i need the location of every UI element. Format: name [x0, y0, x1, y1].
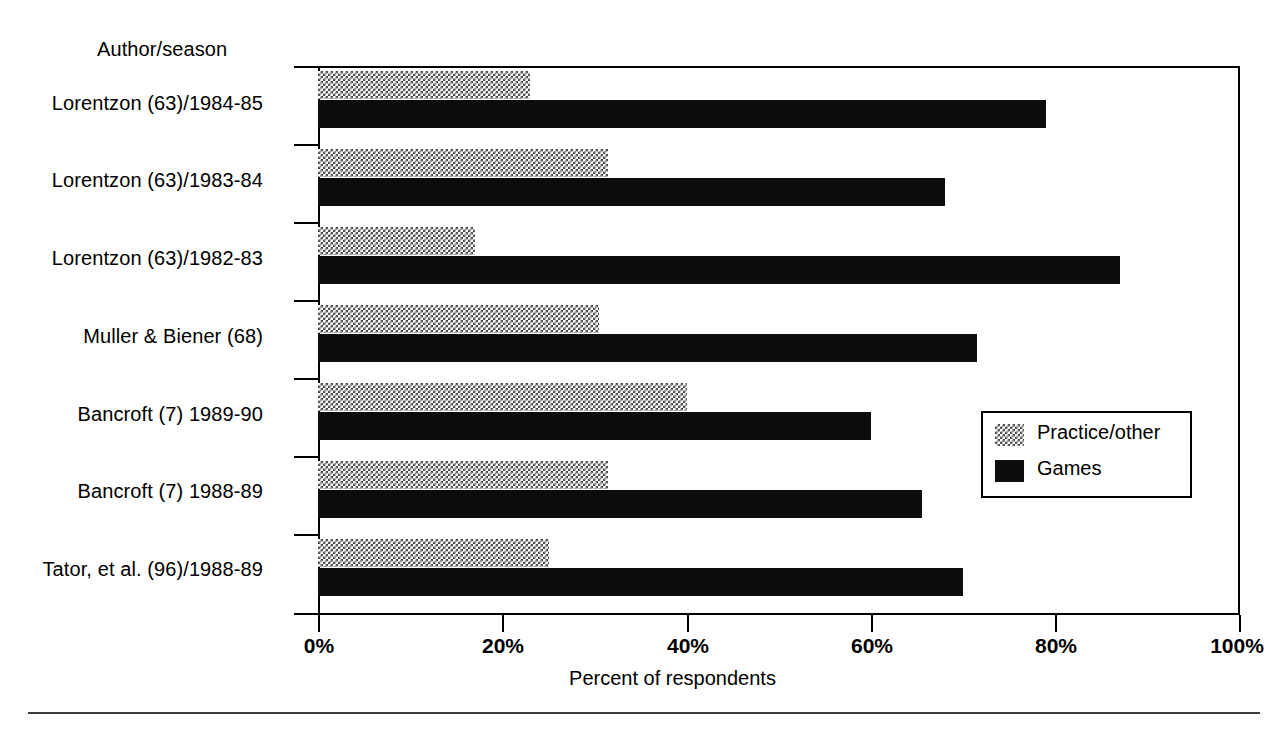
legend-label-practice: Practice/other	[1037, 421, 1160, 444]
bar-games-6	[318, 568, 963, 596]
bar-practice-5	[318, 461, 608, 489]
x-axis-tick-3	[871, 615, 873, 632]
bar-games-0	[318, 100, 1046, 128]
y-axis-tick-6	[294, 534, 318, 536]
legend-label-games: Games	[1037, 457, 1101, 480]
y-axis-title: Author/season	[97, 38, 227, 61]
y-tick-label-0: Lorentzon (63)/1984-85	[52, 92, 263, 115]
bar-games-2	[318, 256, 1120, 284]
legend-swatch-practice-icon	[995, 424, 1024, 446]
bar-practice-4	[318, 383, 687, 411]
bar-practice-1	[318, 149, 608, 177]
bars-layer	[318, 66, 1240, 615]
x-axis-tick-0	[318, 615, 320, 632]
bar-games-5	[318, 490, 922, 518]
bar-practice-0	[318, 71, 530, 99]
x-axis-tick-4	[1055, 615, 1057, 632]
bar-practice-3	[318, 305, 599, 333]
y-tick-label-1: Lorentzon (63)/1983-84	[52, 169, 263, 192]
x-tick-label-4: 80%	[1035, 634, 1077, 658]
y-axis-tick-0	[294, 66, 318, 68]
y-tick-label-4: Bancroft (7) 1989-90	[78, 403, 263, 426]
x-tick-label-3: 60%	[851, 634, 893, 658]
bar-practice-2	[318, 227, 475, 255]
y-tick-label-3: Muller & Biener (68)	[83, 325, 263, 348]
x-axis-title: Percent of respondents	[0, 667, 1285, 690]
bar-games-3	[318, 334, 977, 362]
x-tick-label-5: 100%	[1210, 634, 1264, 658]
bar-practice-6	[318, 539, 549, 567]
x-tick-label-1: 20%	[482, 634, 524, 658]
y-axis-tick-3	[294, 300, 318, 302]
y-tick-label-2: Lorentzon (63)/1982-83	[52, 247, 263, 270]
page-bottom-rule	[28, 712, 1260, 714]
legend-swatch-games-icon	[995, 460, 1024, 482]
chart-figure: Author/season Lorentzon (63)/1984-85 Lor…	[0, 0, 1285, 729]
x-axis-tick-2	[687, 615, 689, 632]
y-axis-tick-5	[294, 456, 318, 458]
bar-games-4	[318, 412, 871, 440]
x-tick-label-0: 0%	[304, 634, 334, 658]
y-axis-tick-4	[294, 378, 318, 380]
y-tick-label-6: Tator, et al. (96)/1988-89	[42, 558, 263, 581]
y-axis-tick-2	[294, 222, 318, 224]
y-axis-tick-7	[294, 613, 318, 615]
y-tick-label-5: Bancroft (7) 1988-89	[78, 480, 263, 503]
x-axis-tick-5	[1239, 615, 1241, 632]
y-axis-tick-1	[294, 144, 318, 146]
chart-legend: Practice/other Games	[981, 411, 1192, 498]
x-axis-tick-1	[502, 615, 504, 632]
x-tick-label-2: 40%	[667, 634, 709, 658]
bar-games-1	[318, 178, 945, 206]
